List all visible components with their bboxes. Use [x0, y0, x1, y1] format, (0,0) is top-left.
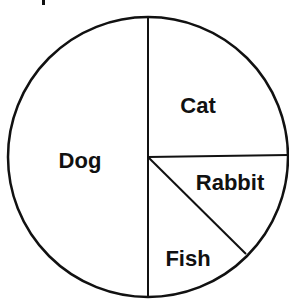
slice-label-fish: Fish [165, 246, 210, 271]
slice-label-cat: Cat [180, 93, 216, 118]
pie-chart: Cat Rabbit Fish Dog [0, 0, 289, 300]
slice-label-dog: Dog [59, 148, 102, 173]
slice-label-rabbit: Rabbit [196, 170, 265, 195]
